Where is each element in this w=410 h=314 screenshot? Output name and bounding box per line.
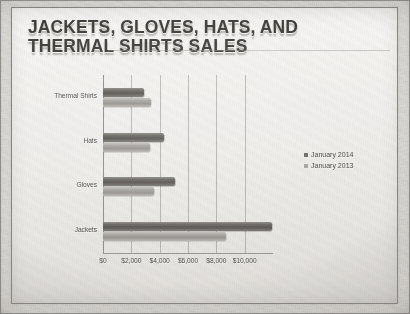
category-label: Hats	[83, 137, 97, 144]
legend-item: January 2014	[304, 151, 390, 158]
x-tick-label: $10,000	[233, 257, 257, 264]
category-group: Hats	[103, 120, 273, 165]
x-tick-label: $8,000	[206, 257, 226, 264]
legend-label: January 2014	[311, 151, 353, 158]
category-label: Gloves	[76, 181, 97, 188]
slide-card: JACKETS, GLOVES, HATS, AND THERMAL SHIRT…	[11, 7, 398, 304]
category-label: Thermal Shirts	[54, 92, 97, 99]
chart-legend: January 2014January 2013	[304, 151, 390, 173]
bar-gloves-january-2013	[103, 187, 154, 196]
legend-swatch-icon	[304, 164, 308, 168]
x-tick-label: $6,000	[178, 257, 198, 264]
bar-hats-january-2013	[103, 143, 150, 152]
plot-area: $0$2,000$4,000$6,000$8,000$10,000Thermal…	[103, 75, 273, 253]
category-group: Thermal Shirts	[103, 75, 273, 120]
bar-thermal-shirts-january-2014	[103, 88, 144, 97]
bar-chart: $0$2,000$4,000$6,000$8,000$10,000Thermal…	[12, 8, 397, 303]
bar-gloves-january-2014	[103, 177, 175, 186]
legend-item: January 2013	[304, 162, 390, 169]
category-group: Jackets	[103, 209, 273, 254]
legend-swatch-icon	[304, 153, 308, 157]
legend-label: January 2013	[311, 162, 353, 169]
bar-thermal-shirts-january-2013	[103, 98, 151, 107]
bar-hats-january-2014	[103, 133, 164, 142]
x-tick-label: $2,000	[121, 257, 141, 264]
x-tick-label: $0	[99, 257, 106, 264]
category-group: Gloves	[103, 164, 273, 209]
bar-jackets-january-2013	[103, 232, 226, 241]
x-tick-label: $4,000	[150, 257, 170, 264]
bar-jackets-january-2014	[103, 222, 272, 231]
category-label: Jackets	[75, 226, 97, 233]
photographed-slide: JACKETS, GLOVES, HATS, AND THERMAL SHIRT…	[0, 0, 410, 314]
x-axis-line	[103, 253, 273, 254]
